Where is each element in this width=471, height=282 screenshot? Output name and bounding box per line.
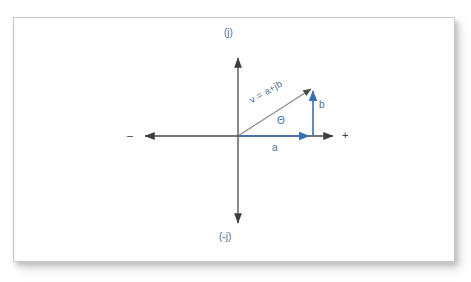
- axis-label-real-negative: –: [127, 130, 133, 141]
- axis-label-real-positive: +: [342, 130, 348, 141]
- real-component-label: a: [272, 143, 278, 153]
- imaginary-component-label: b: [319, 100, 325, 110]
- axis-label-imaginary-positive: (j): [224, 28, 233, 38]
- angle-theta-label: Θ: [277, 116, 285, 126]
- vector-diagram-graphics: [0, 0, 471, 282]
- diagram-canvas: (j) (-j) + – a b Θ v = a+jb: [0, 0, 471, 282]
- axis-label-imaginary-negative: (-j): [219, 232, 231, 242]
